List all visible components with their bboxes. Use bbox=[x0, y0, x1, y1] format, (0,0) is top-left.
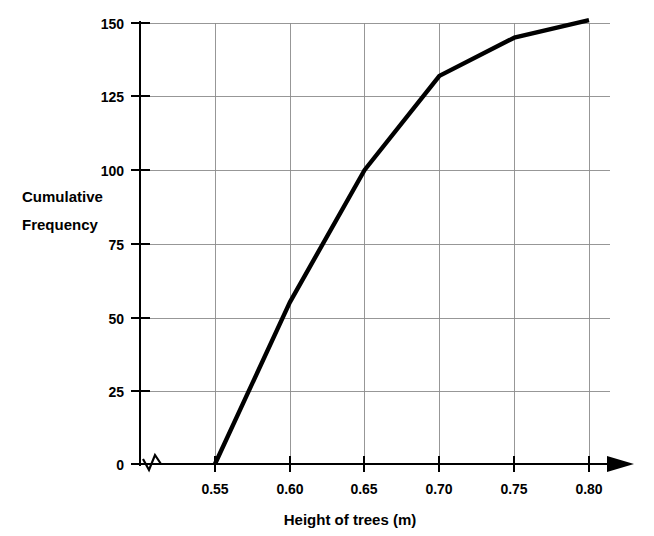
x-tick-label-0.70: 0.70 bbox=[425, 481, 452, 497]
cumulative-frequency-chart: 150 125 100 75 50 25 0 0.55 0.60 0.65 0.… bbox=[0, 0, 654, 536]
y-tick-label-25: 25 bbox=[108, 384, 124, 400]
x-tick-label-0.65: 0.65 bbox=[350, 481, 377, 497]
axis-break-icon bbox=[143, 455, 161, 470]
y-axis-title-line2: Frequency bbox=[22, 216, 99, 233]
y-tick-label-150: 150 bbox=[101, 16, 125, 32]
y-tick-label-50: 50 bbox=[108, 311, 124, 327]
y-tick-labels: 150 125 100 75 50 25 0 bbox=[101, 16, 125, 473]
y-axis-title-line1: Cumulative bbox=[22, 188, 103, 205]
y-tick-label-100: 100 bbox=[101, 163, 125, 179]
x-axis-arrow-icon bbox=[607, 456, 634, 472]
horizontal-gridlines bbox=[140, 23, 610, 391]
x-axis-title: Height of trees (m) bbox=[284, 511, 417, 528]
y-tick-label-125: 125 bbox=[101, 89, 125, 105]
cumulative-frequency-line bbox=[215, 20, 589, 464]
vertical-gridlines bbox=[215, 23, 589, 464]
x-tick-label-0.80: 0.80 bbox=[575, 481, 602, 497]
y-tick-label-75: 75 bbox=[108, 237, 124, 253]
x-tick-label-0.60: 0.60 bbox=[276, 481, 303, 497]
x-tick-label-0.75: 0.75 bbox=[500, 481, 527, 497]
chart-page: 150 125 100 75 50 25 0 0.55 0.60 0.65 0.… bbox=[0, 0, 654, 536]
x-tick-label-0.55: 0.55 bbox=[201, 481, 228, 497]
y-tick-label-0: 0 bbox=[116, 457, 124, 473]
x-tick-labels: 0.55 0.60 0.65 0.70 0.75 0.80 bbox=[201, 481, 602, 497]
